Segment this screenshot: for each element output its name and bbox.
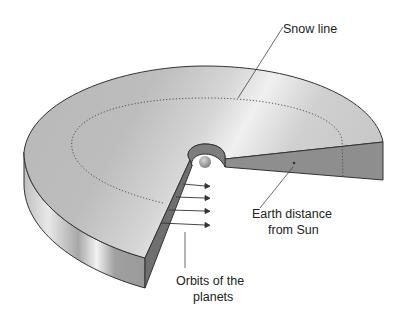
orbits-label-2: planets — [193, 290, 233, 304]
sun-icon — [199, 156, 211, 168]
earth-distance-leader — [260, 167, 293, 208]
earth-distance-label-2: from Sun — [268, 223, 319, 237]
disk-diagram: Snow line Earth distance from Sun Orbits… — [0, 0, 406, 319]
orbits-label-1: Orbits of the — [176, 274, 244, 288]
earth-distance-label-1: Earth distance — [252, 207, 332, 221]
snow-line-label: Snow line — [283, 22, 337, 36]
earth-distance-dot — [293, 162, 296, 165]
